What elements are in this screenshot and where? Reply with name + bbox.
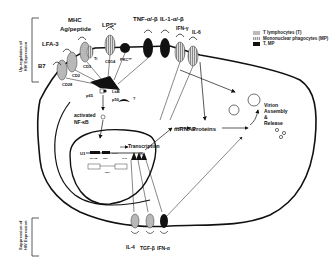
nucleus xyxy=(70,130,156,204)
label-il6: IL-6 xyxy=(192,29,201,35)
label-rna: RNA xyxy=(105,171,111,174)
ltr-box-nfkb xyxy=(90,151,100,154)
virions xyxy=(229,94,286,139)
label-il1: IL-1-α/-β xyxy=(160,16,184,22)
ti-receptor xyxy=(87,46,93,58)
ikb-degraded xyxy=(118,99,130,102)
cd14-receptor xyxy=(105,35,115,55)
label-p65: p65 xyxy=(86,93,94,98)
label-p50: p50 xyxy=(112,97,120,102)
label-b7: B7 xyxy=(38,63,46,69)
label-box-sp1: Sp1 xyxy=(103,157,108,160)
tnf-receptor xyxy=(143,38,153,58)
cd2-receptor xyxy=(67,52,77,72)
ifng-receptor xyxy=(175,42,185,62)
label-proteins: Proteins xyxy=(192,126,217,132)
ltr-gene-box-right xyxy=(115,164,127,169)
label-lps: LPS* xyxy=(102,22,117,28)
label-tgfb: TGF-β xyxy=(140,245,155,251)
label-cd3: CD3 xyxy=(83,64,92,69)
ifna-receptor xyxy=(160,214,168,228)
label-ti: Ti xyxy=(94,56,97,61)
label-box-tar: TAR xyxy=(122,157,127,160)
ifna-inhibit-line xyxy=(165,137,242,218)
label-ifng: IFN-γ xyxy=(176,25,189,31)
label-tnf: TNF-α/-β xyxy=(133,16,158,22)
ltr-box-sp1 xyxy=(102,151,110,154)
il4-receptor xyxy=(131,214,139,228)
label-pkc: PKC** xyxy=(120,57,132,62)
label-box-tata: TATA xyxy=(112,152,118,155)
label-il4: IL-4 xyxy=(126,244,135,250)
label-u3: U3 xyxy=(80,151,86,156)
label-question: ? xyxy=(133,96,136,101)
ltr-gene-box-left xyxy=(88,164,100,169)
label-cd28: CD28 xyxy=(62,82,73,87)
label-nfkb: NF-κB xyxy=(74,119,89,125)
il6-receptor xyxy=(188,46,198,66)
label-release: Release xyxy=(264,120,283,126)
label-mhc: MHC xyxy=(68,17,82,23)
hiv-regulation-diagram: Up-regulation of HIV Expression Suppress… xyxy=(0,0,334,268)
label-lfa3: LFA-3 xyxy=(42,41,59,47)
label-ifna: IFN-α xyxy=(157,245,171,251)
diagram-canvas: B7 LFA-3 MHC Ag/peptide LPS* TNF-α/-β IL… xyxy=(0,0,334,268)
il1-receptor xyxy=(160,38,170,58)
signal-complex xyxy=(90,76,120,90)
label-cd2: CD2 xyxy=(72,73,81,78)
label-activated: activated xyxy=(74,112,96,118)
cd28-receptor xyxy=(57,60,67,80)
p50-node xyxy=(103,89,106,92)
label-box-nfkb: NF-κB xyxy=(90,157,98,160)
label-cd14: CD14 xyxy=(105,59,116,64)
suppression-bracket xyxy=(32,218,39,256)
label-ikb: I-κB xyxy=(112,89,120,94)
upregulation-bracket xyxy=(32,18,39,82)
activated-nfkb-node xyxy=(101,115,105,119)
label-transcription: Transcription xyxy=(128,143,160,149)
label-r: R xyxy=(140,151,143,156)
tgfb-receptor xyxy=(146,214,154,228)
pkc-node xyxy=(120,43,130,53)
label-ag-peptide: Ag/peptide xyxy=(60,26,92,32)
